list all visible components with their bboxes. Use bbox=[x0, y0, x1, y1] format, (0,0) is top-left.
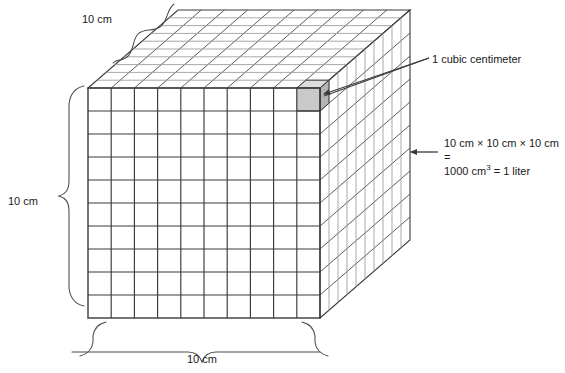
brace-bottom-width-right bbox=[302, 322, 328, 356]
label-cubic-centimeter: 1 cubic centimeter bbox=[432, 52, 521, 66]
label-volume-value: 1000 cm bbox=[444, 165, 486, 177]
label-volume-line2: 1000 cm3 = 1 liter bbox=[444, 164, 564, 178]
diagram-canvas: 10 cm 10 cm 10 cm 1 cubic centimeter 10 … bbox=[0, 0, 565, 373]
label-volume-line1: 10 cm × 10 cm × 10 cm = bbox=[444, 137, 559, 163]
cube-front-face bbox=[88, 88, 320, 318]
label-left-height: 10 cm bbox=[8, 194, 38, 208]
label-volume-equation: 10 cm × 10 cm × 10 cm = 1000 cm3 = 1 lit… bbox=[444, 136, 564, 178]
label-volume-liter: = 1 liter bbox=[491, 165, 530, 177]
brace-left-height bbox=[59, 86, 84, 306]
label-bottom-width: 10 cm bbox=[187, 352, 217, 366]
label-top-width: 10 cm bbox=[82, 12, 112, 26]
brace-bottom-width bbox=[80, 322, 106, 356]
